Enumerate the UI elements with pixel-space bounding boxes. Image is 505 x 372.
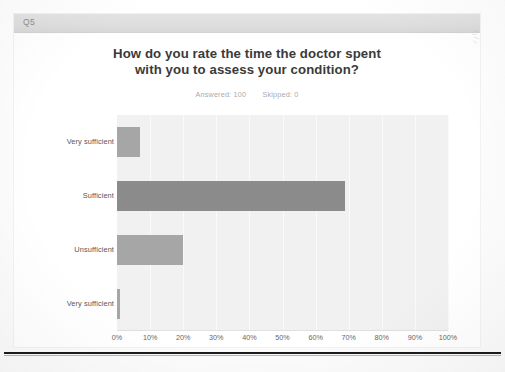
page-bottom-rule-shadow (4, 355, 501, 356)
bar-chart: Very sufficientSufficientUnsufficientVer… (14, 101, 480, 347)
gridline (283, 115, 284, 331)
category-label-0: Very sufficient (16, 137, 114, 146)
gridline (150, 115, 151, 331)
value-tick-30: 30% (209, 333, 223, 342)
scanned-page: Q5 How do you rate the time the doctor s… (0, 0, 505, 372)
gridline (382, 115, 383, 331)
question-number-label: Q5 (23, 17, 35, 27)
question-title-line-2: with you to assess your condition? (14, 62, 480, 78)
skipped-count: Skipped: 0 (263, 90, 299, 99)
category-label-2: Unsufficient (16, 245, 114, 254)
question-title-line-1: How do you rate the time the doctor spen… (14, 46, 480, 62)
value-tick-60: 60% (308, 333, 322, 342)
value-tick-20: 20% (176, 333, 190, 342)
category-axis-labels: Very sufficientSufficientUnsufficientVer… (14, 115, 114, 331)
survey-result-card: Q5 How do you rate the time the doctor s… (14, 14, 480, 347)
category-label-3: Very sufficient (16, 299, 114, 308)
value-tick-50: 50% (275, 333, 289, 342)
gridline (415, 115, 416, 331)
bar-3 (117, 289, 120, 319)
value-tick-80: 80% (375, 333, 389, 342)
response-summary: Answered: 100 Skipped: 0 (14, 90, 480, 99)
summary-spacer (248, 90, 260, 99)
gridline (183, 115, 184, 331)
gridline (349, 115, 350, 331)
answered-count: Answered: 100 (196, 90, 247, 99)
page-title: How do you rate the time the doctor spen… (14, 46, 480, 78)
value-tick-10: 10% (143, 333, 157, 342)
value-tick-40: 40% (242, 333, 256, 342)
bar-1 (117, 181, 345, 211)
bar-0 (117, 127, 140, 157)
gridline (316, 115, 317, 331)
page-bottom-rule (4, 352, 501, 354)
scan-artifact-icon (470, 28, 484, 46)
value-axis-labels: 0%10%20%30%40%50%60%70%80%90%100% (117, 333, 448, 347)
value-tick-90: 90% (408, 333, 422, 342)
gridline (249, 115, 250, 331)
value-tick-70: 70% (341, 333, 355, 342)
gridline (216, 115, 217, 331)
gridline (448, 115, 449, 331)
value-tick-0: 0% (112, 333, 122, 342)
value-axis-line (117, 330, 448, 331)
question-header-bar: Q5 (14, 14, 480, 33)
plot-area (117, 115, 448, 331)
category-label-1: Sufficient (16, 191, 114, 200)
value-tick-100: 100% (439, 333, 457, 342)
bar-2 (117, 235, 183, 265)
